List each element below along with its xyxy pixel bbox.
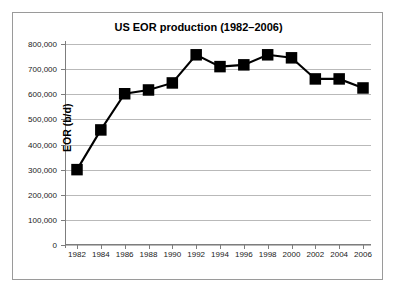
data-point-marker — [357, 82, 369, 94]
x-axis-tick-label: 2004 — [330, 250, 348, 259]
x-axis-tick-label: 1982 — [68, 250, 86, 259]
x-axis-tick — [196, 245, 197, 249]
data-point-marker — [214, 61, 226, 73]
data-point-marker — [310, 73, 322, 85]
x-axis-tick — [101, 245, 102, 249]
x-axis-tick — [292, 245, 293, 249]
data-point-marker — [262, 49, 274, 61]
x-axis-tick — [244, 245, 245, 249]
chart-figure-frame: US EOR production (1982–2006) 800,000700… — [12, 12, 383, 280]
data-point-marker — [119, 88, 131, 100]
x-axis-tick — [339, 245, 340, 249]
x-axis-tick-label: 1990 — [163, 250, 181, 259]
plot-area: 800,000700,000600,000500,000400,000300,0… — [65, 44, 371, 245]
x-axis-tick — [149, 245, 150, 249]
y-axis-tick-label: 700,000 — [28, 65, 57, 74]
data-point-marker — [95, 124, 107, 135]
x-axis-tick-label: 1994 — [211, 250, 229, 259]
y-axis-tick-label: 100,000 — [28, 215, 57, 224]
y-axis-tick-label: 200,000 — [28, 190, 57, 199]
x-axis-tick — [172, 245, 173, 249]
x-axis-tick-label: 2000 — [283, 250, 301, 259]
y-axis-tick — [61, 245, 65, 246]
data-series-eor-production — [65, 44, 371, 245]
x-axis-tick-label: 2002 — [306, 250, 324, 259]
chart-title: US EOR production (1982–2006) — [13, 21, 384, 33]
x-axis-tick-label: 1988 — [140, 250, 158, 259]
data-point-marker — [333, 73, 345, 85]
x-axis-tick — [315, 245, 316, 249]
y-axis-tick-label: 500,000 — [28, 115, 57, 124]
x-axis-tick-label: 1984 — [92, 250, 110, 259]
data-point-marker — [286, 52, 298, 64]
data-point-marker — [143, 84, 155, 96]
x-axis-tick — [268, 245, 269, 249]
x-axis-tick-label: 1986 — [116, 250, 134, 259]
x-axis-tick-label: 1992 — [187, 250, 205, 259]
gridline — [65, 245, 371, 246]
x-axis-tick — [220, 245, 221, 249]
x-axis-tick-label: 2006 — [354, 250, 372, 259]
data-point-marker — [71, 164, 83, 176]
x-axis-tick — [77, 245, 78, 249]
x-axis-tick-label: 1998 — [259, 250, 277, 259]
y-axis-tick-label: 0 — [53, 241, 57, 250]
x-axis-tick — [125, 245, 126, 249]
y-axis-tick-label: 400,000 — [28, 140, 57, 149]
x-axis-tick — [363, 245, 364, 249]
y-axis-tick-label: 600,000 — [28, 90, 57, 99]
x-axis-tick-label: 1996 — [235, 250, 253, 259]
data-point-marker — [238, 59, 250, 71]
data-point-marker — [167, 77, 179, 89]
y-axis-tick-label: 800,000 — [28, 40, 57, 49]
data-point-marker — [190, 49, 202, 61]
series-markers — [71, 49, 369, 175]
y-axis-tick-label: 300,000 — [28, 165, 57, 174]
